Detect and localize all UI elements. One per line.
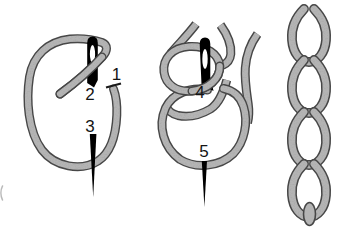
needle-point	[202, 161, 207, 207]
stitch-diagram-canvas: 1 2 3 4 5	[0, 0, 352, 233]
chain-stitch-diagram: 1 2 3 4 5	[0, 0, 352, 233]
cropped-edge-artifact	[1, 186, 3, 200]
chain-link-3	[292, 112, 326, 165]
chain-link-1	[292, 9, 326, 62]
point-label-5: 5	[199, 142, 208, 161]
anchor-stitch	[304, 203, 316, 226]
chain-link-2	[292, 60, 326, 113]
point-label-1: 1	[112, 65, 121, 84]
point-label-4: 4	[195, 83, 204, 102]
needle-eye	[202, 49, 207, 69]
point-label-3: 3	[85, 117, 94, 136]
panel-step-2: 4 5	[162, 24, 258, 207]
panel-finished-chain	[292, 9, 326, 226]
panel-step-1: 1 2 3	[28, 37, 121, 198]
point-label-2: 2	[85, 85, 94, 104]
